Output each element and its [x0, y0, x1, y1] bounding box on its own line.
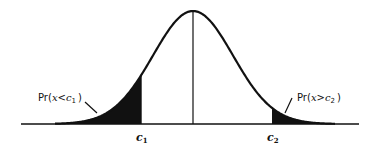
- c1-label: c1: [136, 131, 148, 145]
- bell-curve: [55, 11, 335, 124]
- normal-curve-diagram: Pr(x<c1) Pr(x>c2) c1 c2: [0, 0, 374, 152]
- left-tail-label: Pr(x<c1): [38, 92, 82, 105]
- left-label-pointer: [85, 102, 97, 113]
- diagram-svg: Pr(x<c1) Pr(x>c2) c1 c2: [0, 0, 374, 152]
- right-tail-label: Pr(x>c2): [297, 92, 341, 105]
- right-label-pointer: [285, 98, 292, 113]
- c2-label: c2: [267, 131, 279, 145]
